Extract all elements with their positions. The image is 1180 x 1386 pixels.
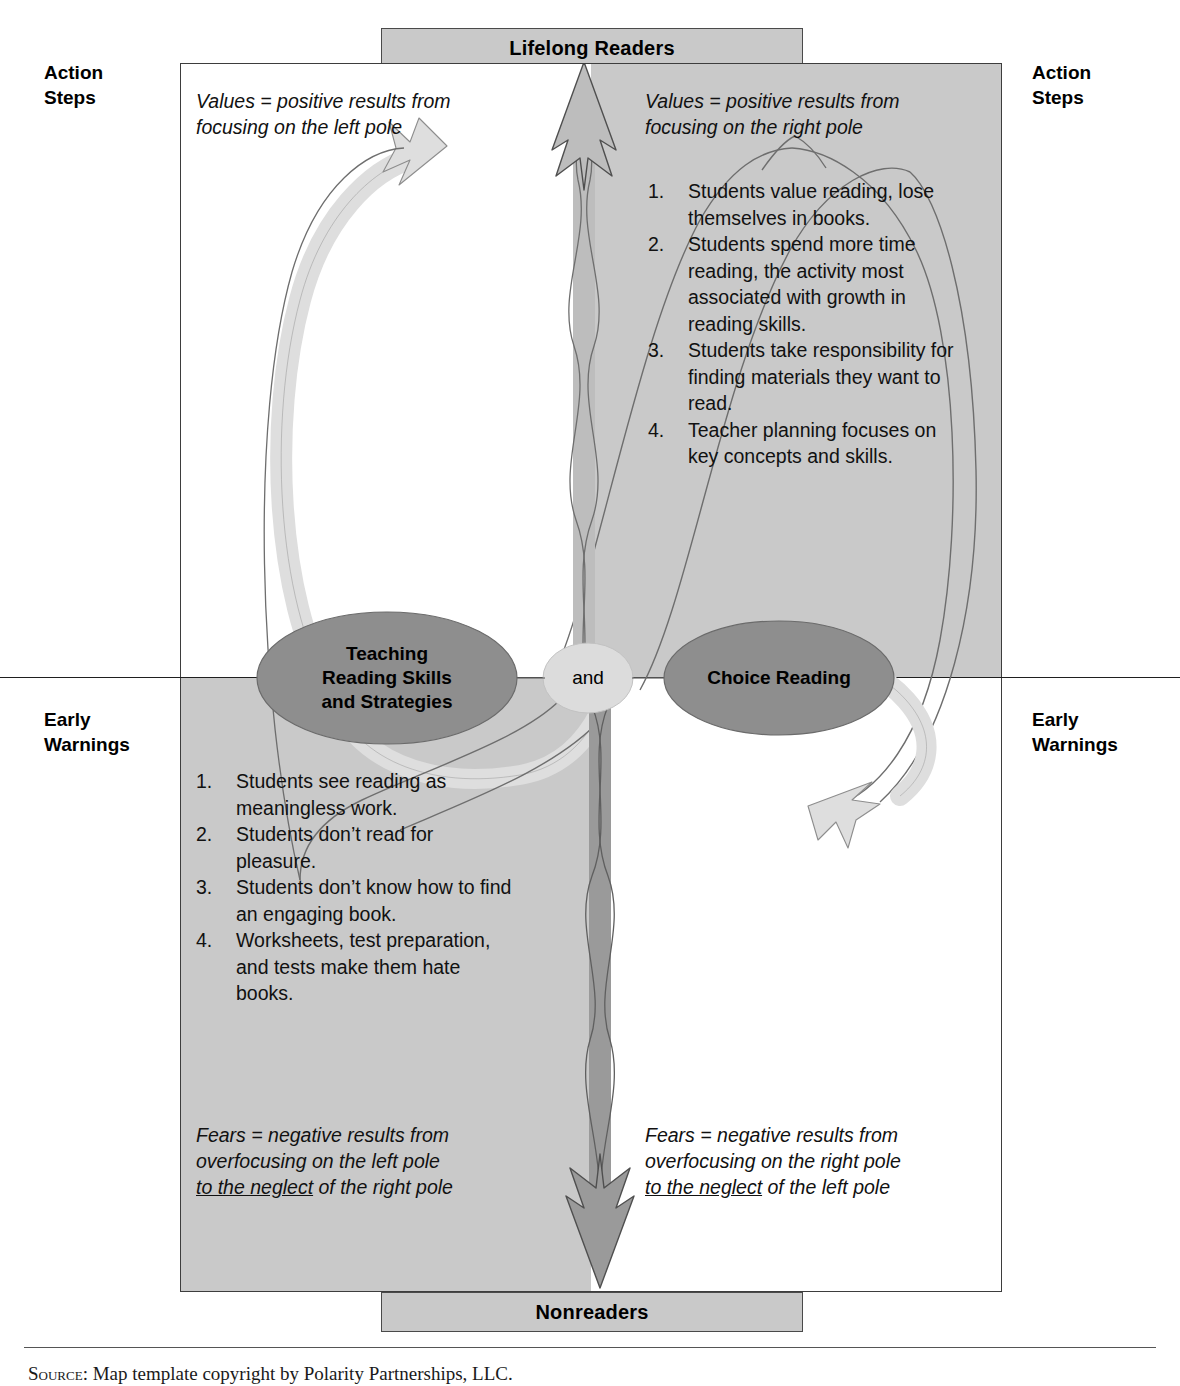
list-item: 2. Students don’t read for pleasure. bbox=[196, 821, 516, 874]
fears-left-neglect-underline: to the neglect bbox=[196, 1176, 313, 1198]
values-caption-left-line2: focusing on the left pole bbox=[196, 114, 526, 140]
list-item-text: Worksheets, test preparation, and tests … bbox=[236, 927, 516, 1007]
top-pole-label: Lifelong Readers bbox=[509, 37, 674, 60]
list-item-number: 2. bbox=[196, 821, 236, 848]
right-pole-label: Choice Reading bbox=[665, 622, 893, 734]
values-caption-left: Values = positive results from focusing … bbox=[196, 88, 526, 140]
early-warnings-label-left: Early Warnings bbox=[44, 707, 130, 757]
fears-caption-right-line2: overfocusing on the right pole bbox=[645, 1148, 985, 1174]
list-item: 3. Students don’t know how to find an en… bbox=[196, 874, 516, 927]
list-item-text: Students don’t know how to find an engag… bbox=[236, 874, 516, 927]
fears-right-neglect-underline: to the neglect bbox=[645, 1176, 762, 1198]
list-item: 4. Worksheets, test preparation, and tes… bbox=[196, 927, 516, 1007]
top-pole-box: Lifelong Readers bbox=[381, 28, 803, 68]
list-item-text: Students take responsibility for finding… bbox=[688, 337, 968, 417]
list-item-number: 1. bbox=[196, 768, 236, 795]
fears-caption-left-line3: to the neglect of the right pole bbox=[196, 1174, 536, 1200]
fears-caption-right: Fears = negative results from overfocusi… bbox=[645, 1122, 985, 1200]
fears-caption-right-line1: Fears = negative results from bbox=[645, 1122, 985, 1148]
list-item-number: 3. bbox=[648, 337, 688, 364]
fears-caption-left-line1: Fears = negative results from bbox=[196, 1122, 536, 1148]
list-item: 1. Students value reading, lose themselv… bbox=[648, 178, 968, 231]
bottom-pole-label: Nonreaders bbox=[535, 1301, 648, 1324]
fears-caption-right-line3: to the neglect of the left pole bbox=[645, 1174, 985, 1200]
upper-right-values-list: 1. Students value reading, lose themselv… bbox=[648, 178, 968, 470]
list-item-number: 1. bbox=[648, 178, 688, 205]
values-caption-left-line1: Values = positive results from bbox=[196, 88, 526, 114]
values-caption-right-line2: focusing on the right pole bbox=[645, 114, 975, 140]
list-item: 3. Students take responsibility for find… bbox=[648, 337, 968, 417]
fears-caption-left-line2: overfocusing on the left pole bbox=[196, 1148, 536, 1174]
list-item: 2. Students spend more time reading, the… bbox=[648, 231, 968, 337]
list-item-text: Teacher planning focuses on key concepts… bbox=[688, 417, 968, 470]
list-item-number: 4. bbox=[196, 927, 236, 954]
source-note-lead: Source: bbox=[28, 1363, 88, 1384]
fears-left-neglect-rest: of the right pole bbox=[313, 1176, 453, 1198]
left-pole-label: Teaching Reading Skills and Strategies bbox=[258, 612, 516, 744]
list-item: 4. Teacher planning focuses on key conce… bbox=[648, 417, 968, 470]
values-caption-right-line1: Values = positive results from bbox=[645, 88, 975, 114]
list-item-text: Students don’t read for pleasure. bbox=[236, 821, 516, 874]
list-item-text: Students spend more time reading, the ac… bbox=[688, 231, 968, 337]
values-caption-right: Values = positive results from focusing … bbox=[645, 88, 975, 140]
source-divider-rule bbox=[24, 1347, 1156, 1348]
and-connector-label: and bbox=[545, 655, 631, 701]
fears-right-neglect-rest: of the left pole bbox=[762, 1176, 890, 1198]
source-note-text: Map template copyright by Polarity Partn… bbox=[88, 1363, 513, 1384]
action-steps-label-right: Action Steps bbox=[1032, 60, 1091, 110]
lower-left-fears-list: 1. Students see reading as meaningless w… bbox=[196, 768, 516, 1007]
action-steps-label-left: Action Steps bbox=[44, 60, 103, 110]
fears-caption-left: Fears = negative results from overfocusi… bbox=[196, 1122, 536, 1200]
list-item-number: 3. bbox=[196, 874, 236, 901]
early-warnings-label-right: Early Warnings bbox=[1032, 707, 1118, 757]
bottom-pole-box: Nonreaders bbox=[381, 1292, 803, 1332]
list-item-number: 4. bbox=[648, 417, 688, 444]
list-item-text: Students value reading, lose themselves … bbox=[688, 178, 968, 231]
list-item: 1. Students see reading as meaningless w… bbox=[196, 768, 516, 821]
list-item-number: 2. bbox=[648, 231, 688, 258]
list-item-text: Students see reading as meaningless work… bbox=[236, 768, 516, 821]
source-note: Source: Map template copyright by Polari… bbox=[28, 1362, 1128, 1386]
